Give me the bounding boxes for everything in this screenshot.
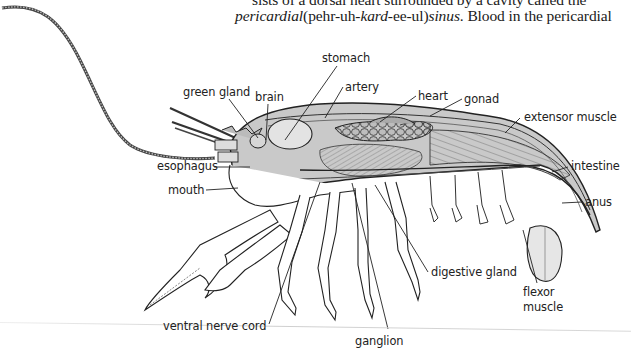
label-esophagus: esophagus <box>157 160 218 173</box>
label-flexor: flexor <box>523 286 554 299</box>
textbook-page: sists of a dorsal heart surrounded by a … <box>0 0 631 352</box>
label-muscle: muscle <box>523 301 563 314</box>
stomach-organ <box>268 119 312 149</box>
label-green-gland: green gland <box>183 86 250 99</box>
label-extensor-muscle: extensor muscle <box>524 111 617 124</box>
brain-organ <box>250 134 266 148</box>
label-anus: anus <box>585 196 612 209</box>
label-ganglion: ganglion <box>355 335 403 348</box>
antenna <box>2 7 240 159</box>
label-digestive-gland: digestive gland <box>431 266 517 279</box>
label-gonad: gonad <box>464 93 499 106</box>
label-brain: brain <box>255 91 284 104</box>
tail-fan <box>527 226 562 281</box>
label-stomach: stomach <box>322 52 370 65</box>
label-intestine: intestine <box>571 160 620 173</box>
label-mouth: mouth <box>168 184 204 197</box>
label-artery: artery <box>345 81 379 94</box>
label-ventral-nerve-cord: ventral nerve cord <box>163 320 266 333</box>
swimmerets <box>430 170 514 224</box>
label-heart: heart <box>418 90 448 103</box>
